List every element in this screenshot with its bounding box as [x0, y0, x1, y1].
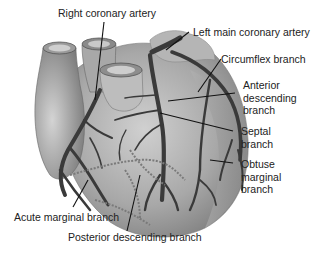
- label-obtuse-marginal-branch: Obtuse marginal branch: [241, 158, 281, 196]
- label-acute-marginal-branch: Acute marginal branch: [14, 211, 119, 224]
- label-circumflex-branch: Circumflex branch: [221, 53, 306, 66]
- label-posterior-descending-branch: Posterior descending branch: [68, 231, 202, 244]
- label-anterior-descending-branch: Anterior descending branch: [243, 79, 297, 117]
- coronary-artery-diagram: Right coronary artery Left main coronary…: [0, 0, 320, 254]
- label-septal-branch: Septal branch: [241, 125, 273, 150]
- label-right-coronary-artery: Right coronary artery: [58, 7, 156, 20]
- label-left-main-coronary-artery: Left main coronary artery: [193, 26, 310, 39]
- superior-vena-cava: [35, 48, 85, 179]
